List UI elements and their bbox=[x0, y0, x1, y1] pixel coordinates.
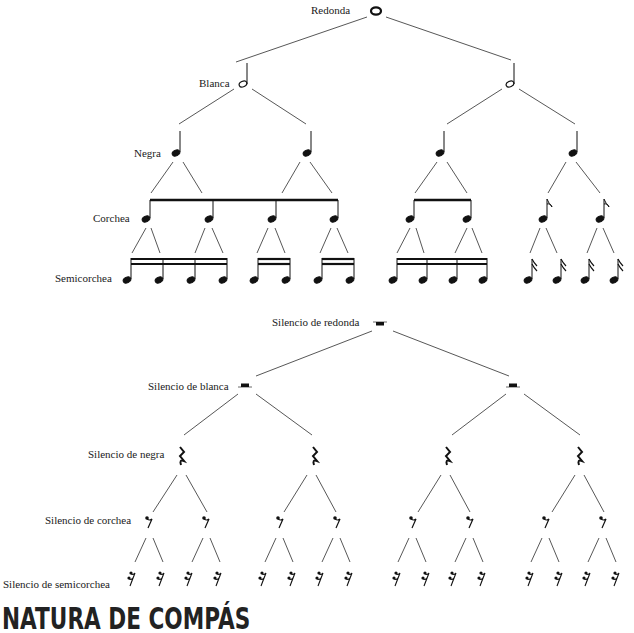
beamed-sixteenth-notes-group-4 bbox=[388, 258, 488, 284]
eighth-rest-icon bbox=[542, 516, 549, 528]
sixteenth-rest-icon bbox=[315, 571, 323, 586]
quarter-note-icon bbox=[171, 131, 181, 157]
sixteenth-rest-icon bbox=[213, 571, 221, 586]
label-silencio-negra: Silencio de negra bbox=[88, 448, 164, 460]
label-silencio-semicorchea: Silencio de semicorchea bbox=[3, 578, 110, 590]
beamed-sixteenth-notes-group-4 bbox=[122, 258, 228, 284]
quarter-rest-icon bbox=[578, 447, 582, 465]
label-corchea: Corchea bbox=[93, 212, 130, 224]
quarter-rest-icon bbox=[313, 447, 317, 465]
half-rest-icon bbox=[238, 384, 252, 388]
label-negra: Negra bbox=[134, 147, 161, 159]
whole-rest-icon bbox=[373, 322, 387, 326]
beamed-eighth-notes-group-2 bbox=[405, 200, 472, 223]
half-note-icon bbox=[505, 63, 515, 88]
beamed-sixteenth-notes-group-2 bbox=[313, 258, 355, 284]
sixteenth-rest-icon bbox=[344, 571, 352, 586]
section-heading: NATURA DE COMPÁS bbox=[2, 604, 250, 633]
half-note-icon bbox=[238, 63, 248, 88]
eighth-note-icon bbox=[595, 199, 609, 223]
sixteenth-rest-icon bbox=[392, 571, 400, 586]
label-silencio-corchea: Silencio de corchea bbox=[45, 514, 131, 526]
sixteenth-rest-icon bbox=[477, 571, 485, 586]
sixteenth-note-icon bbox=[580, 259, 594, 284]
eighth-rest-icon bbox=[333, 516, 340, 528]
half-rest-icon bbox=[506, 384, 520, 388]
label-semicorchea: Semicorchea bbox=[55, 272, 112, 284]
eighth-note-icon bbox=[538, 199, 552, 223]
sixteenth-rest-icon bbox=[448, 571, 456, 586]
sixteenth-rest-icon bbox=[127, 571, 135, 586]
sixteenth-rest-icon bbox=[554, 571, 562, 586]
sixteenth-rest-icon bbox=[582, 571, 590, 586]
quarter-rest-icon bbox=[446, 447, 450, 465]
beamed-sixteenth-notes-group-2 bbox=[249, 258, 291, 284]
sixteenth-note-icon bbox=[523, 259, 537, 284]
eighth-rest-icon bbox=[202, 516, 209, 528]
sixteenth-rest-icon bbox=[611, 571, 619, 586]
eighth-rest-icon bbox=[409, 516, 416, 528]
quarter-note-icon bbox=[302, 131, 312, 157]
sixteenth-rest-icon bbox=[421, 571, 429, 586]
sixteenth-note-icon bbox=[552, 259, 566, 284]
eighth-rest-icon bbox=[599, 516, 606, 528]
quarter-rest-icon bbox=[180, 447, 184, 465]
eighth-rest-icon bbox=[276, 516, 283, 528]
rests-tree bbox=[135, 331, 616, 562]
label-redonda: Redonda bbox=[311, 4, 350, 16]
sixteenth-rest-icon bbox=[287, 571, 295, 586]
eighth-rest-icon bbox=[145, 516, 152, 528]
label-silencio-redonda: Silencio de redonda bbox=[272, 316, 359, 328]
eighth-rest-icon bbox=[466, 516, 473, 528]
label-silencio-blanca: Silencio de blanca bbox=[148, 380, 229, 392]
sixteenth-rest-icon bbox=[184, 571, 192, 586]
label-blanca: Blanca bbox=[199, 77, 230, 89]
sixteenth-rests-row bbox=[127, 571, 619, 586]
sixteenth-note-icon bbox=[609, 259, 623, 284]
quarter-note-icon bbox=[568, 131, 578, 157]
whole-note-icon bbox=[371, 7, 381, 14]
sixteenth-rest-icon bbox=[525, 571, 533, 586]
sixteenth-rest-icon bbox=[258, 571, 266, 586]
beamed-eighth-notes-group-4 bbox=[141, 200, 339, 223]
sixteenth-rest-icon bbox=[156, 571, 164, 586]
quarter-note-icon bbox=[435, 131, 445, 157]
